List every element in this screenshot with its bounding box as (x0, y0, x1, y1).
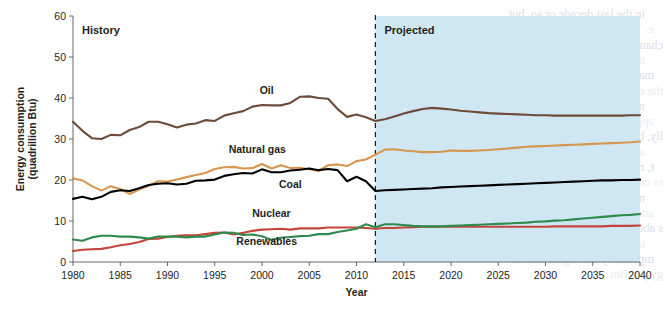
x-axis-tick-label: 2000 (250, 269, 274, 281)
x-axis-tick-label: 2010 (345, 269, 369, 281)
y-axis-title-line-2: (quadrillion Btu) (26, 98, 38, 179)
x-axis-tick-label: 2040 (628, 269, 652, 281)
series-label-oil: Oil (260, 84, 274, 96)
x-axis-title: Year (345, 286, 367, 298)
x-axis-tick-label: 1990 (156, 269, 180, 281)
projected-region-label: Projected (384, 24, 434, 36)
x-axis-tick-label: 1980 (61, 269, 85, 281)
energy-consumption-chart: in the last decade or so, bute. This eff… (0, 0, 665, 312)
x-axis-tick-label: 2035 (581, 269, 605, 281)
y-axis-tick-label: 0 (60, 256, 66, 268)
x-axis-tick-label: 2020 (439, 269, 463, 281)
series-label-coal: Coal (279, 178, 302, 190)
chart-canvas: in the last decade or so, bute. This eff… (0, 0, 665, 312)
x-axis-tick-label: 2025 (487, 269, 511, 281)
x-axis-tick-label: 1995 (203, 269, 227, 281)
series-label-natural-gas: Natural gas (229, 143, 286, 155)
y-axis-tick-label: 10 (54, 215, 66, 227)
series-label-nuclear: Nuclear (252, 207, 291, 219)
history-region-label: History (82, 24, 121, 36)
x-axis-tick-label: 1985 (109, 269, 133, 281)
x-axis-tick-label: 2015 (392, 269, 416, 281)
x-axis-tick-label: 2005 (298, 269, 322, 281)
y-axis-tick-label: 60 (54, 10, 66, 22)
y-axis-tick-label: 40 (54, 92, 66, 104)
y-axis-tick-label: 20 (54, 174, 66, 186)
y-axis-tick-label: 30 (54, 133, 66, 145)
x-axis-tick-label: 2030 (534, 269, 558, 281)
series-label-renewables: Renewables (236, 235, 297, 247)
y-axis-title-line-1: Energy consumption (14, 87, 26, 191)
y-axis-tick-label: 50 (54, 51, 66, 63)
